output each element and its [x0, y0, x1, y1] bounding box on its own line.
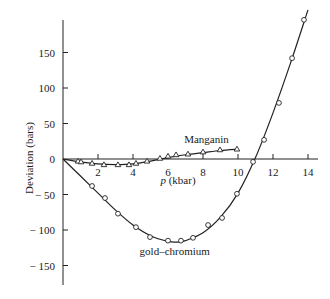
y-tick-label: 0: [50, 153, 56, 165]
data-point-manganin: [165, 153, 171, 158]
data-point-gold-chromium: [235, 191, 240, 196]
data-point-gold-chromium: [206, 223, 211, 228]
fit-curve-manganin: [63, 149, 238, 165]
data-point-gold-chromium: [103, 196, 108, 201]
data-point-gold-chromium: [251, 159, 256, 164]
data-point-gold-chromium: [262, 137, 267, 142]
x-tick-label: 4: [130, 166, 136, 178]
x-tick-label: 12: [268, 166, 279, 178]
x-tick-label: 2: [95, 166, 101, 178]
data-point-manganin: [234, 146, 240, 151]
data-point-gold-chromium: [148, 235, 153, 240]
y-axis-label: Deviation (bars): [23, 122, 36, 194]
y-tick-label: 50: [44, 118, 56, 130]
deviation-vs-pressure-chart: 150100500− 50− 100− 1502468101214 Deviat…: [0, 0, 330, 299]
x-tick-label: 14: [303, 166, 315, 178]
data-point-gold-chromium: [134, 225, 139, 230]
data-point-gold-chromium: [116, 211, 121, 216]
data-point-manganin: [200, 149, 206, 154]
data-point-manganin: [173, 152, 179, 157]
fit-curves: [63, 10, 308, 242]
x-axis-label: p (kbar): [159, 174, 195, 187]
data-points: [75, 17, 306, 243]
x-tick-label: 8: [200, 166, 206, 178]
data-point-gold-chromium: [277, 101, 282, 106]
data-point-gold-chromium: [290, 56, 295, 61]
data-point-gold-chromium: [191, 235, 196, 240]
x-tick-label: 10: [233, 166, 245, 178]
y-tick-label: − 150: [30, 260, 56, 272]
fit-curve-gold-chromium: [63, 10, 308, 242]
data-point-gold-chromium: [220, 216, 225, 221]
y-tick-label: 100: [39, 82, 56, 94]
data-point-gold-chromium: [179, 238, 184, 243]
data-point-manganin: [217, 147, 223, 152]
data-point-gold-chromium: [302, 17, 307, 22]
series-label-gold-chromium: gold–chromium: [140, 245, 211, 257]
data-point-gold-chromium: [90, 184, 95, 189]
y-tick-label: − 50: [35, 189, 55, 201]
data-point-gold-chromium: [166, 238, 171, 243]
data-point-manganin: [157, 155, 163, 160]
series-label-manganin: Manganin: [184, 133, 229, 145]
y-tick-label: − 100: [30, 224, 56, 236]
y-tick-label: 150: [39, 47, 56, 59]
